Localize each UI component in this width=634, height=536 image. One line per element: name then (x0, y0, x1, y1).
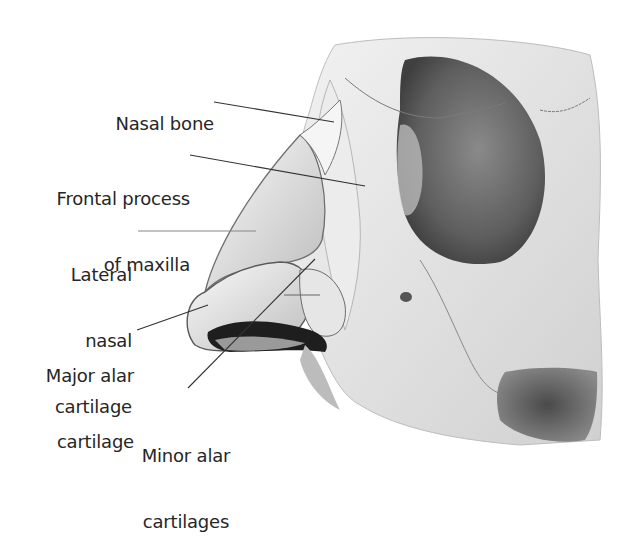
label-nasal-bone: Nasal bone (60, 91, 214, 135)
label-major-alar-cartilage: Major alar cartilage (20, 321, 134, 475)
label-minor-alar-cartilages: Minor alar cartilages (128, 401, 244, 536)
skull (289, 38, 602, 445)
